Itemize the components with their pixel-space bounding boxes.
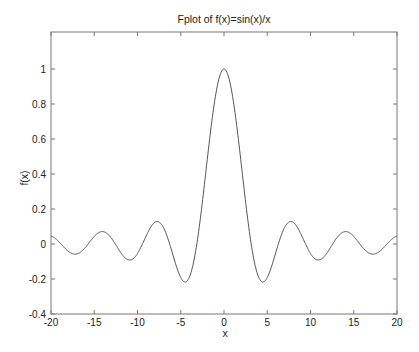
y-tick-label: 0.2 (32, 204, 46, 215)
x-tick-label: 20 (391, 317, 403, 328)
chart-title: Fplot of f(x)=sin(x)/x (177, 13, 271, 25)
y-axis-label: f(x) (18, 170, 30, 185)
x-tick-label: -15 (87, 317, 102, 328)
axes-box (51, 32, 397, 314)
y-tick-label: 0.4 (32, 169, 46, 180)
y-tick-label: 0.6 (32, 134, 46, 145)
x-tick-label: -5 (176, 317, 185, 328)
x-tick-label: -20 (44, 317, 59, 328)
chart: Fplot of f(x)=sin(x)/x -20-15-10-5051015… (0, 0, 419, 352)
y-tick-label: 1 (40, 64, 46, 75)
x-tick-label: 15 (348, 317, 360, 328)
y-tick-label: 0.8 (32, 99, 46, 110)
y-tick-label: -0.4 (29, 309, 47, 320)
x-tick-label: 5 (264, 317, 270, 328)
x-tick-label: -10 (130, 317, 145, 328)
x-tick-label: 10 (305, 317, 317, 328)
x-axis-label: x (222, 327, 228, 339)
y-tick-label: -0.2 (29, 274, 47, 285)
y-tick-label: 0 (40, 239, 46, 250)
